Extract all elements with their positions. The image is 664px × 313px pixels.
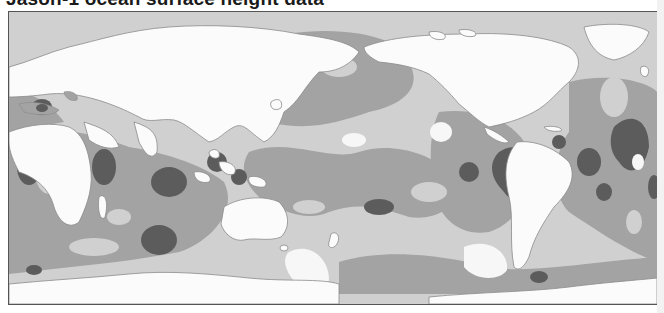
page-edge xyxy=(657,0,664,313)
dark-med-blob xyxy=(36,104,48,112)
ocean-height-map xyxy=(8,11,658,305)
map-title: Jason-1 ocean surface height data xyxy=(6,0,324,10)
map-canvas xyxy=(9,12,657,304)
